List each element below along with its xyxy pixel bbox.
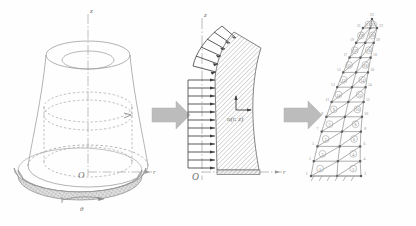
node-number: 2 [364,172,366,176]
figure-root: z r [0,0,416,226]
node-number: 3 [309,157,311,161]
element-number: 7 [328,122,330,127]
mesh-node [341,131,343,133]
mesh-node [351,86,353,88]
origin-label-section: O [192,172,199,182]
element-number: 13 [342,78,346,83]
mesh-node [355,42,357,44]
node-number: 17 [343,53,347,57]
axis-of-symmetry: z [202,11,207,180]
mesh-node [310,175,312,177]
mesh-node [361,116,363,118]
element-number: 8 [354,122,356,127]
node-number: 18 [373,53,377,57]
inner-ring-arrow [124,113,131,118]
displacement-label: u(r, z) [227,115,244,123]
element-number: 3 [321,152,323,157]
mesh-drawing: 12345678910111213141516171819202122 1234… [290,0,416,226]
node-number: 16 [370,68,374,72]
element-number: 4 [352,152,354,157]
axis-z-label: z [89,7,93,15]
mesh-node [360,131,362,133]
node-number: 11 [326,98,330,102]
mesh-node [364,42,366,44]
node-number: 8 [364,127,366,131]
element-number: 17 [353,48,357,53]
element-number: 6 [353,137,355,142]
element-number: 1 [319,167,321,172]
mesh-base-support [311,176,360,181]
axis-z-label-section: z [203,11,207,19]
mesh-node [359,145,361,147]
node-number: 19 [350,38,354,42]
element-number: 18 [367,48,371,53]
cross-section-drawing: z r [160,0,290,226]
axis-r-label-section: r [283,168,286,175]
element-number: 11 [337,93,341,98]
element-number: 5 [325,137,327,142]
mesh-node [367,71,369,73]
mesh-node [336,86,338,88]
mesh-node [337,160,339,162]
node-number: 15 [337,68,341,72]
mesh-node [355,71,357,73]
theta-label: θ [80,205,84,213]
node-number: 7 [317,127,319,131]
mesh-node [342,71,344,73]
mesh-node [371,18,373,20]
node-number: 14 [368,83,372,87]
mesh-node [365,86,367,88]
node-number: 10 [364,112,368,116]
element-number: 16 [363,63,367,68]
mesh-node [359,57,361,59]
element-number: 2 [352,167,354,172]
mesh-node [370,57,372,59]
element-number: 15 [347,63,351,68]
mesh-node [360,175,362,177]
base-support [217,170,260,175]
axis-z: z [88,7,93,176]
mesh-node [316,145,318,147]
mesh-node [331,101,333,103]
mesh-node [325,116,327,118]
mesh-node [373,42,375,44]
mesh-node [376,27,378,29]
shell-3d-drawing: z r [0,0,160,226]
panel-three-dimensional-shell: z r [0,0,160,226]
node-number: 22 [379,24,383,28]
origin-label-3d: O [78,170,85,180]
node-number: 21 [357,24,361,28]
axis-r-label: r [153,168,156,175]
mesh-node [359,160,361,162]
mesh-node [344,116,346,118]
mesh-node [363,101,365,103]
meridian-band [215,32,261,170]
node-number: 4 [363,157,365,161]
node-number: 23 [370,13,374,17]
pressure-arrows-vertical [188,78,215,169]
mesh-node [321,131,323,133]
element-number: 22 [371,22,375,27]
element-number: 19 [359,33,363,38]
element-number: 20 [370,33,374,38]
mesh-node [313,160,315,162]
element-number: 12 [358,93,362,98]
node-number: 13 [331,83,335,87]
node-number: 5 [312,142,314,146]
mesh-node [347,101,349,103]
node-number: 1 [306,172,308,176]
element-number: 9 [333,107,335,112]
element-number: 10 [355,107,359,112]
element-number: 14 [360,78,364,83]
mesh-node [348,57,350,59]
mesh-node [362,27,364,29]
node-number: 12 [366,98,370,102]
panel-finite-element-mesh: 12345678910111213141516171819202122 1234… [290,0,416,226]
node-number: 6 [363,142,365,146]
node-number: 20 [376,38,380,42]
node-number: 9 [321,112,323,116]
mesh-node [339,145,341,147]
panel-meridian-cross-section: z r [160,0,290,226]
